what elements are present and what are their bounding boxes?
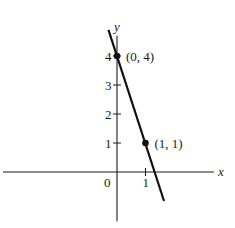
- y-tick-label: 4: [105, 49, 112, 64]
- data-point-label: (0, 4): [126, 49, 154, 64]
- coordinate-plot: x y 0 12341 (0, 4)(1, 1): [0, 0, 235, 228]
- origin-label: 0: [104, 175, 111, 190]
- x-axis-label: x: [217, 164, 224, 179]
- y-tick-label: 3: [105, 78, 112, 93]
- y-tick-label: 2: [105, 107, 112, 122]
- points-group: (0, 4)(1, 1): [114, 49, 183, 151]
- x-tick-label: 1: [143, 175, 150, 190]
- data-point: [142, 140, 149, 147]
- ticks-group: 12341: [105, 49, 149, 191]
- data-point-label: (1, 1): [155, 136, 183, 151]
- data-point: [114, 53, 121, 60]
- y-axis-label: y: [112, 19, 120, 34]
- y-tick-label: 1: [105, 136, 112, 151]
